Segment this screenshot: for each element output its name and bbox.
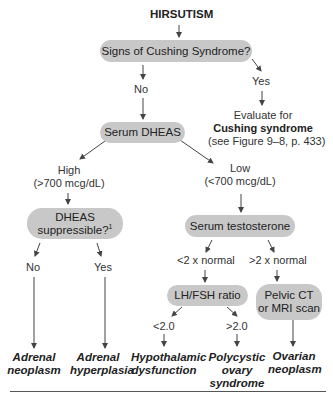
adrenal-neoplasm-line1: Adrenal xyxy=(6,351,62,364)
yes-cushing-label: Yes xyxy=(252,75,270,88)
no-cushing-label: No xyxy=(134,83,148,96)
supp-yes-label: Yes xyxy=(94,261,112,274)
evaluate-line1: Evaluate for xyxy=(208,109,318,122)
low-line2: (<700 mcg/dL) xyxy=(196,175,284,188)
serum-testosterone-node: Serum testosterone xyxy=(185,215,295,237)
flowchart-title: HIRSUTISM xyxy=(150,8,213,20)
footnote-marker: 1 xyxy=(109,223,113,230)
bottom-divider xyxy=(10,391,326,392)
evaluate-line2: Cushing syndrome xyxy=(208,122,318,135)
adrenal-hyperplasia-line1: Adrenal xyxy=(70,351,126,364)
hypothalamic-line2: dysfunction xyxy=(131,364,197,377)
low-line1: Low xyxy=(196,162,284,175)
serum-dheas-node: Serum DHEAS xyxy=(100,122,185,143)
outcome-polycystic-ovary-syndrome: Polycystic ovary syndrome xyxy=(208,351,266,390)
pelvic-ct-line2: or MRI scan xyxy=(258,302,320,315)
ovarian-neoplasm-line1: Ovarian xyxy=(268,350,320,363)
adrenal-neoplasm-line2: neoplasm xyxy=(6,364,62,377)
dheas-suppressible-node: DHEAS suppressible?1 xyxy=(27,208,123,239)
low-dheas-label: Low (<700 mcg/dL) xyxy=(196,162,284,188)
serum-testosterone-label: Serum testosterone xyxy=(190,220,290,233)
ovarian-neoplasm-line2: neoplasm xyxy=(268,363,320,376)
pcos-line2: ovary xyxy=(208,364,266,377)
outcome-adrenal-neoplasm: Adrenal neoplasm xyxy=(6,351,62,377)
serum-dheas-label: Serum DHEAS xyxy=(104,126,181,139)
pelvic-ct-node: Pelvic CT or MRI scan xyxy=(256,284,322,320)
supp-no-label: No xyxy=(26,261,40,274)
outcome-ovarian-neoplasm: Ovarian neoplasm xyxy=(268,350,320,376)
hypothalamic-line1: Hypothalamic xyxy=(131,351,197,364)
cushing-signs-node: Signs of Cushing Syndrome? xyxy=(100,40,252,62)
outcome-adrenal-hyperplasia: Adrenal hyperplasia xyxy=(70,351,126,377)
pcos-line3: syndrome xyxy=(208,377,266,390)
high-dheas-label: High (>700 mcg/dL) xyxy=(26,164,112,190)
outcome-hypothalamic-dysfunction: Hypothalamic dysfunction xyxy=(131,351,197,377)
high-line1: High xyxy=(26,164,112,177)
dheas-supp-line1: DHEAS xyxy=(55,211,95,224)
pelvic-ct-line1: Pelvic CT xyxy=(264,289,313,302)
gt-2x-normal-label: >2 x normal xyxy=(249,254,307,267)
evaluate-cushing-block: Evaluate for Cushing syndrome (see Figur… xyxy=(208,109,318,148)
gt-2-ratio-label: >2.0 xyxy=(226,320,248,333)
lh-fsh-label: LH/FSH ratio xyxy=(174,289,240,302)
dheas-supp-line2: suppressible?1 xyxy=(38,224,113,237)
evaluate-line3: (see Figure 9–8, p. 433) xyxy=(208,135,318,148)
high-line2: (>700 mcg/dL) xyxy=(26,177,112,190)
adrenal-hyperplasia-line2: hyperplasia xyxy=(70,364,126,377)
lt-2-ratio-label: <2.0 xyxy=(153,320,175,333)
lh-fsh-ratio-node: LH/FSH ratio xyxy=(167,285,248,306)
dheas-supp-text: suppressible? xyxy=(38,224,109,236)
cushing-signs-label: Signs of Cushing Syndrome? xyxy=(102,45,251,58)
pcos-line1: Polycystic xyxy=(208,351,266,364)
lt-2x-normal-label: <2 x normal xyxy=(177,254,235,267)
